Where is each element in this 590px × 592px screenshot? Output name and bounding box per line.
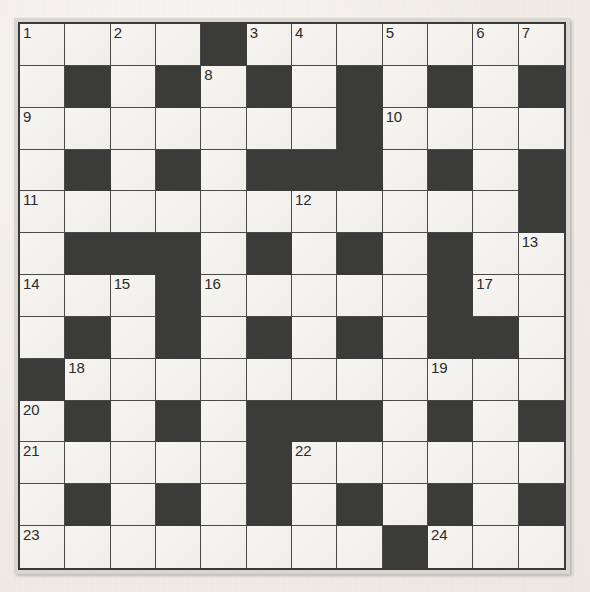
open-square[interactable]	[201, 191, 246, 233]
open-square[interactable]	[111, 484, 156, 526]
open-square[interactable]: 10	[383, 108, 428, 150]
open-square[interactable]: 20	[20, 401, 65, 443]
open-square[interactable]	[111, 191, 156, 233]
open-square[interactable]: 4	[292, 24, 337, 66]
open-square[interactable]: 2	[111, 24, 156, 66]
open-square[interactable]	[201, 442, 246, 484]
open-square[interactable]	[156, 359, 201, 401]
open-square[interactable]	[383, 275, 428, 317]
open-square[interactable]	[156, 108, 201, 150]
open-square[interactable]	[111, 526, 156, 568]
crossword-grid[interactable]: 123456789101112131415161718192021222324	[18, 22, 566, 570]
open-square[interactable]: 12	[292, 191, 337, 233]
open-square[interactable]	[337, 442, 382, 484]
open-square[interactable]	[111, 401, 156, 443]
open-square[interactable]: 23	[20, 526, 65, 568]
open-square[interactable]	[201, 108, 246, 150]
open-square[interactable]	[337, 24, 382, 66]
open-square[interactable]	[156, 526, 201, 568]
open-square[interactable]	[292, 66, 337, 108]
open-square[interactable]	[292, 359, 337, 401]
open-square[interactable]: 22	[292, 442, 337, 484]
open-square[interactable]	[473, 484, 518, 526]
open-square[interactable]	[111, 317, 156, 359]
open-square[interactable]: 8	[201, 66, 246, 108]
open-square[interactable]	[201, 150, 246, 192]
open-square[interactable]	[201, 526, 246, 568]
open-square[interactable]	[337, 526, 382, 568]
open-square[interactable]	[247, 191, 292, 233]
open-square[interactable]	[20, 317, 65, 359]
open-square[interactable]	[519, 275, 564, 317]
open-square[interactable]	[383, 233, 428, 275]
open-square[interactable]	[247, 108, 292, 150]
open-square[interactable]	[473, 442, 518, 484]
open-square[interactable]	[65, 526, 110, 568]
open-square[interactable]	[156, 442, 201, 484]
open-square[interactable]	[383, 442, 428, 484]
open-square[interactable]	[292, 275, 337, 317]
open-square[interactable]	[473, 108, 518, 150]
open-square[interactable]	[292, 108, 337, 150]
open-square[interactable]	[201, 484, 246, 526]
open-square[interactable]	[201, 401, 246, 443]
open-square[interactable]: 19	[428, 359, 473, 401]
open-square[interactable]: 17	[473, 275, 518, 317]
open-square[interactable]	[247, 359, 292, 401]
open-square[interactable]: 9	[20, 108, 65, 150]
open-square[interactable]: 7	[519, 24, 564, 66]
open-square[interactable]	[65, 275, 110, 317]
open-square[interactable]	[519, 442, 564, 484]
open-square[interactable]	[383, 150, 428, 192]
open-square[interactable]	[519, 526, 564, 568]
open-square[interactable]	[111, 66, 156, 108]
open-square[interactable]	[111, 442, 156, 484]
open-square[interactable]	[383, 359, 428, 401]
open-square[interactable]	[292, 526, 337, 568]
open-square[interactable]	[473, 150, 518, 192]
open-square[interactable]	[383, 317, 428, 359]
open-square[interactable]	[337, 191, 382, 233]
open-square[interactable]	[519, 317, 564, 359]
open-square[interactable]	[519, 359, 564, 401]
open-square[interactable]	[201, 317, 246, 359]
open-square[interactable]	[65, 108, 110, 150]
open-square[interactable]	[292, 317, 337, 359]
open-square[interactable]	[473, 233, 518, 275]
open-square[interactable]: 1	[20, 24, 65, 66]
open-square[interactable]	[473, 401, 518, 443]
open-square[interactable]	[473, 66, 518, 108]
open-square[interactable]	[473, 359, 518, 401]
open-square[interactable]: 6	[473, 24, 518, 66]
open-square[interactable]: 16	[201, 275, 246, 317]
open-square[interactable]	[519, 108, 564, 150]
open-square[interactable]	[111, 359, 156, 401]
open-square[interactable]: 13	[519, 233, 564, 275]
open-square[interactable]: 21	[20, 442, 65, 484]
open-square[interactable]: 18	[65, 359, 110, 401]
open-square[interactable]	[292, 233, 337, 275]
open-square[interactable]	[20, 66, 65, 108]
open-square[interactable]	[65, 24, 110, 66]
open-square[interactable]	[111, 108, 156, 150]
open-square[interactable]	[20, 150, 65, 192]
open-square[interactable]	[428, 442, 473, 484]
open-square[interactable]	[247, 275, 292, 317]
open-square[interactable]	[20, 233, 65, 275]
open-square[interactable]	[201, 233, 246, 275]
open-square[interactable]	[337, 359, 382, 401]
open-square[interactable]	[428, 24, 473, 66]
open-square[interactable]	[383, 66, 428, 108]
open-square[interactable]	[383, 191, 428, 233]
open-square[interactable]	[473, 191, 518, 233]
open-square[interactable]	[201, 359, 246, 401]
open-square[interactable]: 3	[247, 24, 292, 66]
open-square[interactable]	[428, 191, 473, 233]
open-square[interactable]	[111, 150, 156, 192]
open-square[interactable]	[337, 275, 382, 317]
open-square[interactable]: 5	[383, 24, 428, 66]
open-square[interactable]	[383, 484, 428, 526]
open-square[interactable]	[292, 484, 337, 526]
open-square[interactable]	[473, 526, 518, 568]
open-square[interactable]	[247, 526, 292, 568]
